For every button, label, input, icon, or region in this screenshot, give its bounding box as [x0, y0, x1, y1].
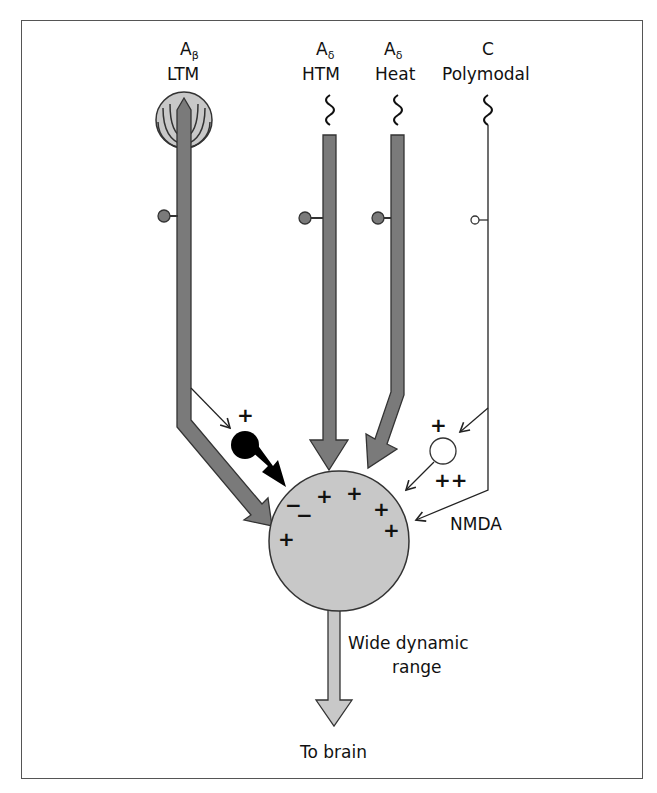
svg-text:Aβ: Aβ: [180, 39, 199, 62]
abeta-to-interneuron-arrow: [191, 388, 230, 428]
label-abeta-ltm: Aβ LTM: [167, 39, 199, 84]
interneuron2-plus-sign: +: [430, 413, 447, 437]
nmda-label: NMDA: [450, 514, 502, 534]
neuron-label-line1: Wide dynamic: [348, 633, 469, 653]
dorsal-horn-diagram: Aβ LTM Aδ HTM Aδ Heat C Polymodal: [0, 0, 657, 793]
svg-text:+: +: [316, 484, 333, 508]
svg-text:Polymodal: Polymodal: [442, 64, 530, 84]
adelta-htm-collateral-icon: [299, 212, 323, 224]
neuron-label-line2: range: [392, 657, 441, 677]
svg-text:HTM: HTM: [302, 64, 340, 84]
c-to-interneuron-arrow: [460, 408, 488, 432]
abeta-collateral-icon: [158, 210, 178, 222]
adelta-heat-collateral-icon: [372, 212, 391, 224]
output-axon: [316, 610, 352, 726]
label-adelta-htm: Aδ HTM: [302, 39, 340, 84]
svg-text:Aδ: Aδ: [316, 39, 335, 62]
adelta-heat-fiber: [366, 135, 404, 468]
svg-text:Aδ: Aδ: [384, 39, 403, 62]
c-fiber-collateral-icon: [471, 216, 488, 224]
adelta-htm-ending-icon: [326, 95, 334, 125]
abeta-fiber: [177, 98, 272, 526]
label-adelta-heat: Aδ Heat: [375, 39, 416, 84]
adelta-heat-ending-icon: [394, 95, 402, 125]
c-fiber-ending-icon: [484, 95, 492, 125]
svg-text:−: −: [296, 503, 313, 527]
label-c-polymodal: C Polymodal: [442, 39, 530, 84]
svg-text:Heat: Heat: [375, 64, 416, 84]
svg-text:C: C: [482, 39, 494, 59]
svg-text:LTM: LTM: [167, 64, 199, 84]
svg-text:+: +: [383, 518, 400, 542]
adelta-htm-fiber: [310, 135, 348, 470]
interneuron-plus-sign: +: [237, 403, 254, 427]
svg-text:+: +: [278, 527, 295, 551]
svg-text:+: +: [346, 481, 363, 505]
interneuron-to-neuron-arrow: [406, 462, 434, 490]
to-brain-label: To brain: [299, 742, 367, 762]
interneuron2-plusplus-sign: ++: [434, 468, 468, 492]
excitatory-interneuron-icon: [430, 438, 456, 464]
